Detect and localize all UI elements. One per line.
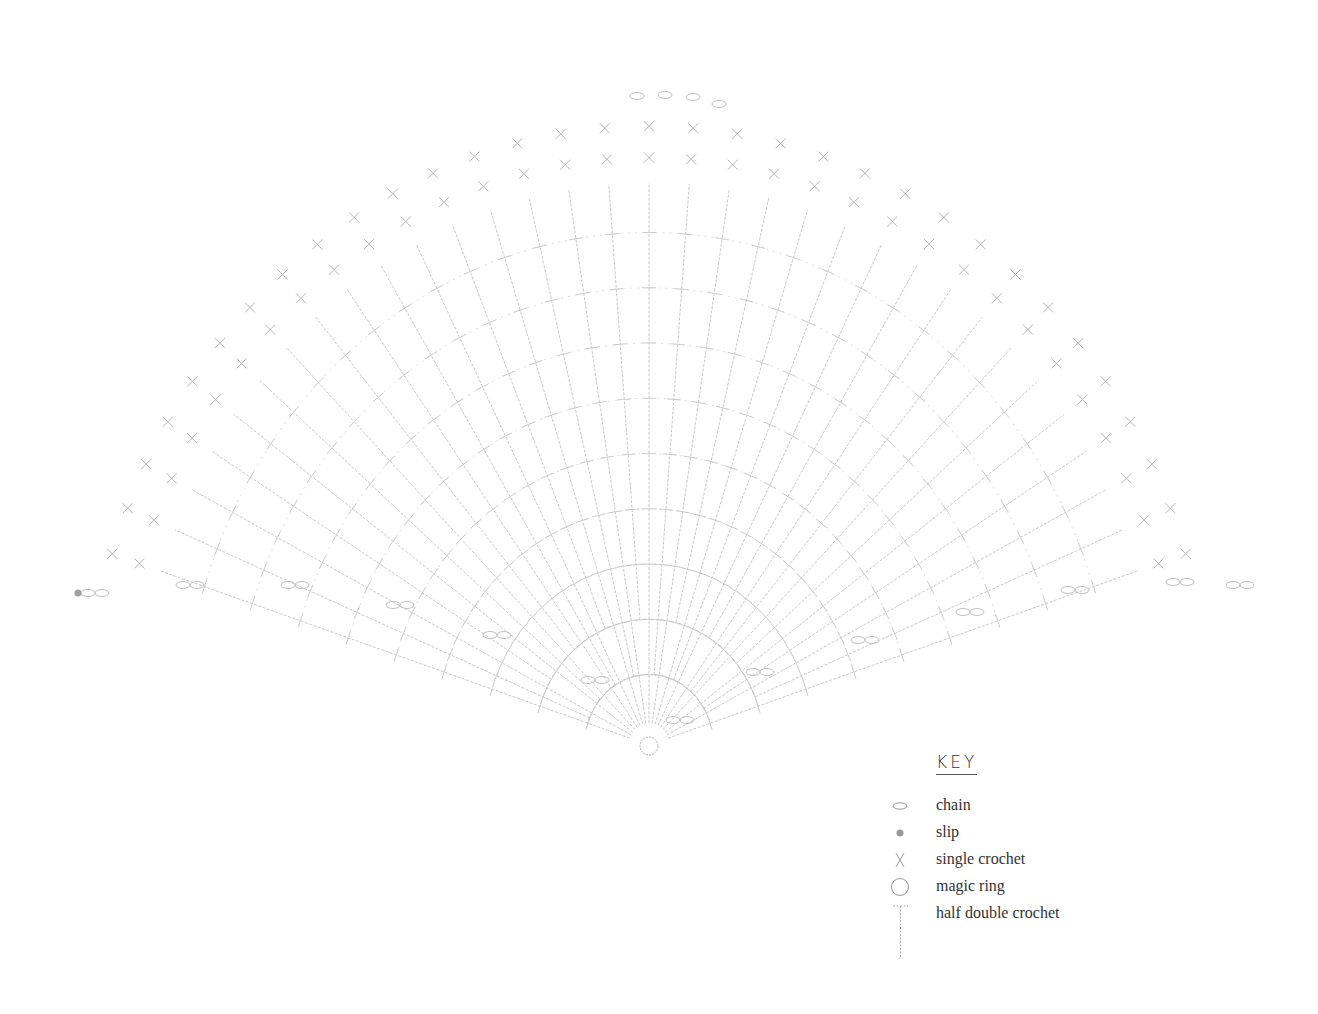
single-crochet-icon: [728, 160, 738, 170]
single-crochet-icon: [512, 138, 522, 148]
single-crochet-icon: [1077, 395, 1087, 405]
chain-icon: [190, 582, 204, 589]
hdc-ray: [755, 530, 1123, 697]
magic-ring-icon: [640, 737, 658, 755]
hdc-ray: [655, 210, 807, 724]
single-crochet-icon: [439, 197, 449, 207]
hdc-ray: [347, 290, 637, 727]
single-crochet-icon: [278, 269, 288, 279]
single-crochet-icon: [644, 153, 654, 163]
hdc-top-tick: [625, 509, 639, 510]
hdc-top-tick: [679, 234, 693, 235]
key-title: KEY: [936, 752, 977, 775]
single-crochet-icon: [1125, 417, 1135, 427]
hdc-ray: [316, 317, 575, 649]
single-crochet-icon: [215, 338, 225, 348]
chain-icon: [1240, 582, 1254, 589]
single-crochet-icon: [1101, 376, 1111, 386]
single-crochet-icon: [401, 217, 411, 227]
hdc-ray: [668, 571, 1137, 738]
single-crochet-icon: [1121, 473, 1131, 483]
magic-ring-icon: [884, 875, 918, 899]
hdc-ray: [736, 380, 1039, 664]
single-crochet-icon: [149, 515, 159, 525]
chain-icon: [686, 94, 700, 101]
single-crochet-icon: [849, 197, 859, 207]
chain-icon: [884, 794, 918, 818]
single-crochet-icon: [428, 168, 438, 178]
single-crochet-icon: [141, 459, 151, 469]
chain-icon: [176, 582, 190, 589]
hdc-top-tick: [845, 648, 850, 661]
hdc-top-tick: [756, 700, 760, 713]
hdc-top-tick: [1043, 597, 1047, 610]
single-crochet-icon: [296, 293, 306, 303]
single-crochet-icon: [900, 189, 910, 199]
single-crochet-icon: [560, 160, 570, 170]
hdc-top-tick: [214, 542, 219, 555]
single-crochet-icon: [776, 138, 786, 148]
hdc-top-tick: [490, 682, 494, 695]
single-crochet-icon: [556, 129, 566, 139]
single-crochet-icon: [1043, 302, 1053, 312]
single-crochet-icon: [818, 152, 828, 162]
chain-icon: [658, 92, 672, 99]
hdc-ray: [381, 265, 616, 685]
single-crochet-icon: [887, 217, 897, 227]
single-crochet-icon: [688, 123, 698, 133]
key-item-single-crochet: single crochet: [884, 848, 1144, 872]
single-crochet-icon: [884, 848, 918, 872]
hdc-top-tick: [804, 682, 808, 695]
chain-icon: [956, 609, 970, 616]
chain-icon: [483, 632, 497, 639]
single-crochet-icon: [600, 123, 610, 133]
single-crochet-icon: [1181, 549, 1191, 559]
single-crochet-icon: [860, 168, 870, 178]
hdc-ray: [661, 290, 951, 727]
single-crochet-icon: [123, 503, 133, 513]
chain-icon: [1180, 579, 1194, 586]
hdc-top-tick: [770, 550, 781, 558]
hdc-ray: [709, 265, 917, 638]
single-crochet-icon: [349, 212, 359, 222]
hdc-top-tick: [250, 597, 254, 610]
hdc-ray: [490, 210, 642, 724]
chain-icon: [970, 609, 984, 616]
single-crochet-icon: [211, 395, 221, 405]
hdc-ray: [652, 189, 729, 723]
chain-icon: [865, 637, 879, 644]
hdc-top-tick: [442, 665, 446, 678]
chain-icon: [1061, 587, 1075, 594]
hdc-top-tick: [364, 581, 370, 593]
single-crochet-icon: [1051, 358, 1061, 368]
single-crochet-icon: [644, 121, 654, 131]
hdc-ray: [569, 189, 646, 723]
hdc-top-tick: [557, 587, 569, 594]
chain-icon: [1075, 587, 1089, 594]
key-item-magic-ring: magic ring: [884, 875, 1144, 899]
hdc-top-tick: [399, 304, 411, 311]
chain-icon: [851, 637, 865, 644]
single-crochet-icon: [924, 239, 934, 249]
hdc-top-tick: [394, 648, 398, 661]
hdc-top-tick: [800, 505, 811, 513]
key-item-slip: slip: [884, 821, 1144, 845]
chain-icon: [95, 590, 109, 597]
chain-icon: [497, 632, 511, 639]
hdc-top-tick: [751, 603, 762, 612]
hdc-ray: [676, 198, 769, 623]
hdc-top-tick: [972, 556, 978, 568]
single-crochet-icon: [769, 169, 779, 179]
chain-icon: [81, 590, 95, 597]
hdc-ray: [691, 317, 983, 691]
hdc-top-tick: [838, 632, 844, 644]
hdc-ray: [192, 490, 631, 735]
single-crochet-icon: [959, 265, 969, 275]
single-crochet-icon: [1139, 515, 1149, 525]
single-crochet-icon: [265, 325, 275, 335]
key-item-chain: chain: [884, 794, 1144, 818]
hdc-top-tick: [1091, 580, 1095, 593]
single-crochet-icon: [602, 154, 612, 164]
chain-icon: [1226, 582, 1240, 589]
hdc-ray: [665, 414, 1064, 732]
